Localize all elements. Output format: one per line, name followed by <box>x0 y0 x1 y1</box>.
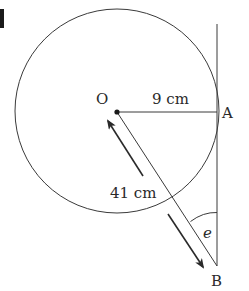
angle-arc-e <box>191 212 218 221</box>
label-b: B <box>211 272 222 290</box>
diagram-canvas: O A B 9 cm 41 cm e <box>0 0 249 291</box>
arrow-up-to-o <box>108 121 143 176</box>
label-a: A <box>221 104 233 122</box>
geometry-diagram: O A B 9 cm 41 cm e <box>0 0 249 291</box>
angle-label-e: e <box>203 224 212 242</box>
measurement-oa: 9 cm <box>152 90 189 108</box>
question-number-fragment <box>0 9 4 28</box>
arrow-down-to-b <box>168 214 203 267</box>
measurement-ob: 41 cm <box>110 184 156 202</box>
label-o: O <box>96 90 108 108</box>
center-point-o <box>114 109 119 114</box>
